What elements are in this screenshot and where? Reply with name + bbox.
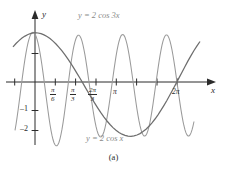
fraction-numerator: π bbox=[50, 87, 56, 95]
y-axis bbox=[32, 10, 39, 145]
x-tick-label-two-pi-over-3: 2π 3 bbox=[88, 87, 97, 103]
y-axis-label: y bbox=[42, 10, 46, 19]
curve-label-2cos3x: y = 2 cos 3x bbox=[78, 11, 120, 20]
x-tick-label-pi-over-6: π 6 bbox=[50, 87, 56, 103]
fraction-denominator: 3 bbox=[70, 95, 76, 103]
curve-label-2cosx: y = 2 cos x bbox=[86, 134, 123, 143]
y-tick-value: 1 bbox=[24, 104, 28, 113]
fraction-denominator: 3 bbox=[88, 95, 97, 103]
y-tick-label-minus-one: –1 bbox=[20, 105, 28, 113]
curve-2cos3x bbox=[15, 32, 194, 146]
figure-container: y x y = 2 cos 3x y = 2 cos x π 6 π 3 2π … bbox=[0, 0, 227, 170]
fraction-pi-over-6: π 6 bbox=[50, 87, 56, 103]
x-axis bbox=[6, 79, 216, 86]
fraction-numerator: 2π bbox=[88, 87, 97, 95]
y-tick-label-minus-two: –2 bbox=[20, 125, 28, 133]
cosine-graph-plot bbox=[0, 0, 227, 170]
x-axis-label: x bbox=[211, 86, 215, 95]
y-tick-value: 2 bbox=[24, 124, 28, 133]
fraction-numerator: π bbox=[70, 87, 76, 95]
fraction-denominator: 6 bbox=[50, 95, 56, 103]
x-tick-label-two-pi: 2π bbox=[172, 88, 180, 96]
fraction-two-pi-over-3: 2π 3 bbox=[88, 87, 97, 103]
x-tick-label-pi: π bbox=[113, 88, 117, 96]
figure-caption: (a) bbox=[0, 152, 227, 162]
x-tick-label-pi-over-3: π 3 bbox=[70, 87, 76, 103]
fraction-pi-over-3: π 3 bbox=[70, 87, 76, 103]
